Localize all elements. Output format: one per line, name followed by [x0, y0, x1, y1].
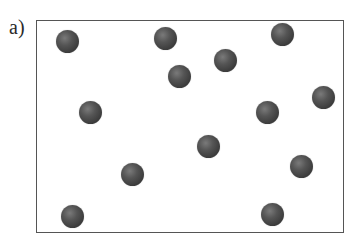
particle-container-box — [36, 20, 344, 233]
particle-sphere — [197, 135, 220, 158]
particle-sphere — [56, 30, 79, 53]
particle-sphere — [214, 49, 237, 72]
panel-label: a) — [9, 16, 25, 38]
particle-sphere — [290, 155, 313, 178]
particle-sphere — [154, 27, 177, 50]
particle-sphere — [271, 23, 294, 46]
particle-sphere — [312, 86, 335, 109]
particle-sphere — [256, 101, 279, 124]
particle-sphere — [121, 163, 144, 186]
particle-sphere — [79, 101, 102, 124]
particle-sphere — [261, 203, 284, 226]
particle-sphere — [168, 65, 191, 88]
particle-sphere — [61, 205, 84, 228]
